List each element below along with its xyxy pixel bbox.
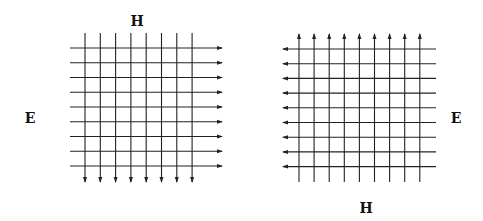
left-arrow-icon: [282, 106, 288, 110]
right-arrow-icon: [217, 135, 223, 139]
right-arrow-icon: [217, 90, 223, 94]
field-diagram: H E H E: [0, 0, 483, 221]
up-arrow-icon: [403, 33, 407, 39]
up-arrow-icon: [357, 33, 361, 39]
left-arrow-icon: [282, 135, 288, 139]
down-arrow-icon: [190, 177, 194, 183]
up-arrow-icon: [373, 33, 377, 39]
down-arrow-icon: [129, 177, 133, 183]
left-panel: [70, 33, 223, 183]
left-arrow-icon: [282, 91, 288, 95]
left-h-label: H: [130, 13, 143, 29]
right-arrow-icon: [217, 164, 223, 168]
right-arrow-icon: [217, 120, 223, 124]
left-arrow-icon: [282, 47, 288, 51]
up-arrow-icon: [418, 33, 422, 39]
right-arrow-icon: [217, 76, 223, 80]
up-arrow-icon: [312, 33, 316, 39]
right-arrow-icon: [217, 149, 223, 153]
down-arrow-icon: [160, 177, 164, 183]
up-arrow-icon: [327, 33, 331, 39]
right-panel: [282, 33, 436, 182]
left-arrow-icon: [282, 121, 288, 125]
left-arrow-icon: [282, 62, 288, 66]
right-arrow-icon: [217, 105, 223, 109]
left-arrow-icon: [282, 76, 288, 80]
down-arrow-icon: [144, 177, 148, 183]
down-arrow-icon: [175, 177, 179, 183]
right-e-label: E: [451, 110, 462, 126]
right-arrow-icon: [217, 46, 223, 50]
down-arrow-icon: [83, 177, 87, 183]
right-h-label: H: [359, 200, 372, 216]
right-arrow-icon: [217, 61, 223, 65]
up-arrow-icon: [297, 33, 301, 39]
left-e-label: E: [25, 110, 36, 126]
up-arrow-icon: [342, 33, 346, 39]
left-arrow-icon: [282, 165, 288, 169]
down-arrow-icon: [98, 177, 102, 183]
down-arrow-icon: [114, 177, 118, 183]
left-arrow-icon: [282, 150, 288, 154]
up-arrow-icon: [388, 33, 392, 39]
